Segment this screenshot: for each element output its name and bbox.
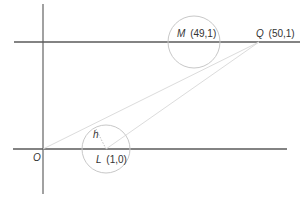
ray-L-to-Q (106, 42, 259, 149)
label-O: O (33, 152, 41, 163)
label-h: h (93, 129, 99, 140)
label-M: M (49,1) (177, 28, 216, 39)
label-Q: Q (50,1) (256, 28, 295, 39)
label-L: L (1,0) (96, 154, 127, 165)
geometry-diagram: O h L (1,0) M (49,1) Q (50,1) (0, 0, 302, 205)
ray-O-to-Q (43, 42, 259, 149)
